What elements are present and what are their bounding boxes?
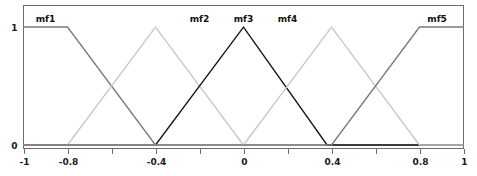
- x-tick-label--0p4: -0.4: [147, 157, 167, 167]
- mf-label-mf2: mf2: [190, 14, 210, 24]
- mf-label-mf5: mf5: [427, 14, 447, 24]
- mf-curve-mf2[interactable]: [24, 27, 464, 145]
- mf-label-mf3: mf3: [234, 14, 254, 24]
- x-tick-label-0p8: 0.8: [413, 157, 429, 167]
- mf-curve-mf3[interactable]: [24, 27, 464, 145]
- mf-curve-mf4[interactable]: [24, 27, 464, 145]
- x-tick-label-0: 0: [241, 157, 247, 167]
- x-tick-label-1: 1: [461, 157, 467, 167]
- mf-label-mf4: mf4: [278, 14, 298, 24]
- y-tick-label-1: 1: [11, 23, 17, 33]
- mf-curve-mf1[interactable]: [24, 27, 464, 145]
- mf-curve-mf5[interactable]: [24, 27, 464, 145]
- y-axis-tick-labels: 01: [11, 23, 17, 151]
- membership-function-plot-panel[interactable]: -1-0.8-0.400.40.81 01 mf1mf2mf3mf4mf5: [0, 0, 477, 176]
- mf-label-mf1: mf1: [36, 14, 56, 24]
- x-axis-tick-labels: -1-0.8-0.400.40.81: [20, 157, 468, 167]
- membership-function-labels: mf1mf2mf3mf4mf5: [36, 14, 447, 24]
- x-tick-label--1: -1: [20, 157, 30, 167]
- x-tick-label-0p4: 0.4: [325, 157, 341, 167]
- membership-function-curves[interactable]: [24, 27, 464, 145]
- x-tick-label--0p8: -0.8: [59, 157, 79, 167]
- membership-function-chart[interactable]: -1-0.8-0.400.40.81 01 mf1mf2mf3mf4mf5: [0, 0, 477, 176]
- y-tick-label-0: 0: [11, 141, 17, 151]
- x-axis-tick-marks: [25, 149, 465, 154]
